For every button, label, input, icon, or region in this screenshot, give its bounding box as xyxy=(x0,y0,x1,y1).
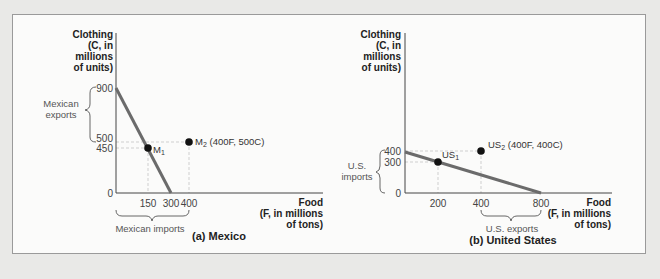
mexico-exports-label-line2: exports xyxy=(45,109,76,120)
us-frontier-line xyxy=(405,152,541,193)
mexico-panel: Clothing (C, in millions of units) 900 5… xyxy=(43,29,323,242)
us-xlabel-line1: Food xyxy=(587,197,611,208)
mexico-point-m2 xyxy=(185,138,193,146)
mexico-point-m1-label: M1 xyxy=(153,144,165,156)
mexico-xtick-300: 300 xyxy=(163,198,180,209)
us-point-us2-label: US2 (400F, 400C) xyxy=(488,139,563,151)
mexico-xtick-150: 150 xyxy=(140,198,157,209)
mexico-caption: (a) Mexico xyxy=(192,230,246,242)
us-xtick-200: 200 xyxy=(430,198,447,209)
mexico-imports-brace-icon xyxy=(116,210,189,221)
mexico-point-m2-label: M2 (400F, 500C) xyxy=(195,136,264,148)
mexico-ylabel-line4: of units) xyxy=(74,62,113,73)
us-ytick-400: 400 xyxy=(384,146,401,157)
mexico-xlabel-line1: Food xyxy=(299,197,323,208)
us-panel: Clothing (C, in millions of units) 400 3… xyxy=(341,29,612,246)
mexico-frontier-line xyxy=(116,88,171,193)
us-point-us2 xyxy=(477,147,485,155)
mexico-imports-label: Mexican imports xyxy=(115,223,184,234)
us-exports-label: U.S. exports xyxy=(486,223,539,234)
us-ytick-300: 300 xyxy=(384,157,401,168)
mexico-ylabel-line3: millions xyxy=(75,51,113,62)
us-ylabel-line3: millions xyxy=(363,51,401,62)
mexico-exports-label-line1: Mexican xyxy=(43,98,78,109)
mexico-exports-brace-icon xyxy=(85,87,96,142)
trade-ppf-figure: Clothing (C, in millions of units) 900 5… xyxy=(0,0,660,279)
us-imports-label-line1: U.S. xyxy=(348,160,366,171)
us-point-us1 xyxy=(434,158,442,166)
us-xlabel-line3: of tons) xyxy=(574,219,611,230)
mexico-point-m1 xyxy=(144,144,152,152)
mexico-xlabel-line2: (F, in millions xyxy=(260,208,324,219)
us-ylabel-line2: (C, in xyxy=(376,40,401,51)
mexico-ytick-900: 900 xyxy=(96,83,113,94)
us-xlabel-line2: (F, in millions xyxy=(548,208,612,219)
mexico-ylabel-line2: (C, in xyxy=(88,40,113,51)
us-caption: (b) United States xyxy=(469,234,556,246)
mexico-xlabel-line3: of tons) xyxy=(286,219,323,230)
us-ylabel-line4: of units) xyxy=(362,62,401,73)
us-exports-brace-icon xyxy=(481,210,541,221)
us-imports-label-line2: imports xyxy=(341,171,372,182)
mexico-ytick-450: 450 xyxy=(96,143,113,154)
us-ylabel-line1: Clothing xyxy=(360,29,401,40)
us-ytick-0: 0 xyxy=(395,188,401,199)
mexico-ylabel-line1: Clothing xyxy=(72,29,113,40)
us-xtick-400: 400 xyxy=(473,198,490,209)
mexico-xtick-400: 400 xyxy=(181,198,198,209)
mexico-ytick-0: 0 xyxy=(107,188,113,199)
